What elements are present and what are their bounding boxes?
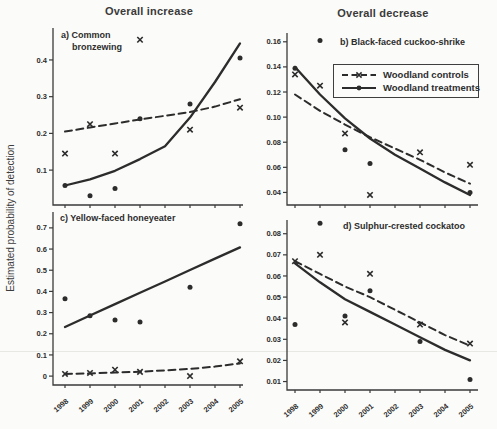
legend-label-controls: Woodland controls xyxy=(383,69,469,80)
svg-text:0.04: 0.04 xyxy=(266,188,281,197)
svg-text:2002: 2002 xyxy=(152,397,171,415)
panel-a-plot: 0.10.20.30.4 xyxy=(37,28,243,208)
treatments-point xyxy=(293,322,298,327)
svg-text:0.16: 0.16 xyxy=(266,37,281,46)
svg-text:0.1: 0.1 xyxy=(37,166,47,175)
controls-point xyxy=(137,37,142,42)
svg-text:0.06: 0.06 xyxy=(266,163,281,172)
treatments-point xyxy=(238,221,243,226)
svg-text:1998: 1998 xyxy=(52,397,71,415)
svg-text:0.1: 0.1 xyxy=(37,351,47,360)
svg-text:0.10: 0.10 xyxy=(266,113,281,122)
controls-point xyxy=(367,192,372,197)
controls-point xyxy=(342,131,347,136)
treatments-point xyxy=(138,116,143,121)
legend: Woodland controls Woodland treatments xyxy=(333,64,479,98)
treatments-point xyxy=(343,147,348,152)
panel-label-b: b) Black-faced cuckoo-shrike xyxy=(340,37,465,49)
panel-label-c: c) Yellow-faced honeyeater xyxy=(60,213,175,225)
svg-text:2004: 2004 xyxy=(432,401,451,419)
fit-line-treatments xyxy=(295,263,470,360)
controls-point xyxy=(367,271,372,276)
svg-text:0.2: 0.2 xyxy=(37,129,47,138)
legend-item-treatments: Woodland treatments xyxy=(341,82,472,93)
svg-text:2003: 2003 xyxy=(407,402,426,420)
treatments-point xyxy=(63,296,68,301)
panel-label-d-text: d) Sulphur-crested cockatoo xyxy=(343,221,465,231)
svg-text:2003: 2003 xyxy=(177,397,196,415)
panel-label-d: d) Sulphur-crested cockatoo xyxy=(343,221,465,233)
treatments-point xyxy=(343,314,348,319)
legend-item-controls: Woodland controls xyxy=(341,69,472,80)
svg-text:2000: 2000 xyxy=(332,402,351,420)
panel-b-plot: 0.040.060.080.100.120.140.16 xyxy=(266,33,478,208)
treatments-point xyxy=(188,285,193,290)
fit-line-treatments xyxy=(65,43,240,185)
treatments-point xyxy=(368,161,373,166)
controls-point xyxy=(187,373,192,378)
svg-text:2001: 2001 xyxy=(357,402,376,420)
svg-text:1999: 1999 xyxy=(307,402,326,420)
fit-line-controls xyxy=(295,261,470,346)
svg-text:0.4: 0.4 xyxy=(37,287,48,296)
panel-label-a-line1: a) Common xyxy=(61,30,111,40)
treatments-point xyxy=(293,66,298,71)
svg-text:0: 0 xyxy=(43,372,47,381)
treatments-point xyxy=(113,317,118,322)
treatments-point xyxy=(188,102,193,107)
svg-text:2002: 2002 xyxy=(382,402,401,420)
controls-point xyxy=(62,151,67,156)
panel-c-plot: 00.10.20.30.40.50.60.7199819992000200120… xyxy=(37,212,246,414)
svg-text:2000: 2000 xyxy=(102,397,121,415)
treatments-point xyxy=(238,56,243,61)
svg-text:0.12: 0.12 xyxy=(266,88,281,97)
svg-text:0.05: 0.05 xyxy=(266,293,281,302)
dashed-line-x-swatch-icon xyxy=(341,70,377,80)
controls-point xyxy=(187,127,192,132)
controls-point xyxy=(317,83,322,88)
svg-text:0.04: 0.04 xyxy=(266,314,281,323)
fit-line-controls xyxy=(295,95,470,184)
svg-text:0.3: 0.3 xyxy=(37,308,47,317)
legend-label-treatments: Woodland treatments xyxy=(383,82,480,93)
svg-text:0.14: 0.14 xyxy=(266,62,281,71)
svg-text:2001: 2001 xyxy=(127,397,146,415)
treatments-point xyxy=(468,377,473,382)
controls-point xyxy=(467,162,472,167)
svg-text:0.5: 0.5 xyxy=(37,266,47,275)
panel-label-a-line2: bronzewing xyxy=(61,42,122,54)
svg-text:1998: 1998 xyxy=(282,402,301,420)
treatments-point xyxy=(113,186,118,191)
svg-text:0.02: 0.02 xyxy=(266,356,281,365)
treatments-point xyxy=(318,38,323,43)
controls-point xyxy=(237,105,242,110)
controls-point xyxy=(342,320,347,325)
svg-text:0.06: 0.06 xyxy=(266,272,281,281)
figure: Overall increase Overall decrease Estima… xyxy=(0,0,497,429)
svg-text:0.4: 0.4 xyxy=(37,56,48,65)
treatments-point xyxy=(63,183,68,188)
treatments-point xyxy=(418,339,423,344)
svg-text:0.08: 0.08 xyxy=(266,138,281,147)
controls-point xyxy=(467,341,472,346)
svg-text:0.7: 0.7 xyxy=(37,223,47,232)
svg-text:0.08: 0.08 xyxy=(266,229,281,238)
svg-text:2005: 2005 xyxy=(457,402,476,420)
svg-text:1999: 1999 xyxy=(77,397,96,415)
treatments-point xyxy=(318,221,323,226)
svg-text:0.01: 0.01 xyxy=(266,377,281,386)
svg-text:0.6: 0.6 xyxy=(37,245,47,254)
treatments-point xyxy=(88,313,93,318)
svg-text:0.2: 0.2 xyxy=(37,329,47,338)
controls-point xyxy=(292,72,297,77)
controls-point xyxy=(87,122,92,127)
treatments-point xyxy=(138,320,143,325)
svg-text:2005: 2005 xyxy=(227,397,246,415)
svg-text:2004: 2004 xyxy=(202,396,221,414)
svg-text:0.03: 0.03 xyxy=(266,335,281,344)
panel-label-a: a) Common bronzewing xyxy=(61,30,122,53)
treatments-point xyxy=(468,190,473,195)
fit-line-controls xyxy=(65,99,240,131)
treatments-point xyxy=(368,288,373,293)
svg-text:0.3: 0.3 xyxy=(37,92,47,101)
